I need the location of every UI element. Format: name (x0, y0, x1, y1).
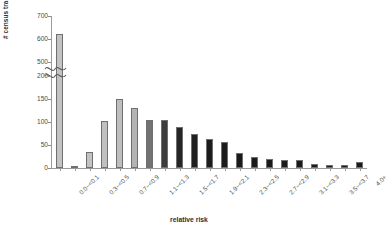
bar (131, 108, 139, 168)
y-axis-tick-label: 150 (37, 96, 48, 103)
y-axis-tick-mark (48, 145, 51, 146)
plot-area (52, 16, 367, 168)
x-axis-title: relative risk (0, 216, 378, 223)
x-axis-tick-mark (75, 168, 76, 171)
x-axis-tick-label: 1.1~<1.3 (168, 174, 190, 196)
bar (266, 159, 274, 168)
bar (176, 127, 184, 168)
x-axis-tick-mark (345, 168, 346, 171)
x-axis-tick-mark (150, 168, 151, 171)
bar (161, 120, 169, 168)
bar (236, 153, 244, 168)
x-axis-tick-mark (225, 168, 226, 171)
x-axis-tick-mark (360, 168, 361, 171)
bar (86, 152, 94, 168)
bar (191, 134, 199, 168)
x-axis-tick-mark (270, 168, 271, 171)
x-axis-tick-mark (180, 168, 181, 171)
x-axis-tick-label: 4.0+ (374, 174, 387, 187)
x-axis-tick-label: 3.5~<3.7 (348, 174, 370, 196)
x-axis-tick-mark (285, 168, 286, 171)
bar (206, 139, 214, 168)
x-axis-tick-mark (195, 168, 196, 171)
x-axis-tick-mark (120, 168, 121, 171)
y-axis-tick-label: 700 (37, 13, 48, 20)
y-axis-tick-label: 500 (37, 59, 48, 66)
y-axis-tick-mark (48, 62, 51, 63)
y-axis-tick-label: 600 (37, 36, 48, 43)
bar (296, 160, 304, 168)
x-axis-tick-mark (330, 168, 331, 171)
bar (221, 142, 229, 168)
x-axis-tick-label: 3.1~<3.3 (318, 174, 340, 196)
y-axis-tick-mark (48, 76, 51, 77)
y-axis-tick-mark (48, 168, 51, 169)
bar (56, 34, 64, 168)
x-axis-tick-mark (315, 168, 316, 171)
y-axis-title: # census tracts (2, 0, 9, 60)
x-axis-tick-label: 1.9~<2.1 (228, 174, 250, 196)
x-axis-tick-mark (240, 168, 241, 171)
x-axis-tick-label: 1.5~<1.7 (198, 174, 220, 196)
x-axis-tick-mark (135, 168, 136, 171)
y-axis-tick-labels: 050100150200500600700 (18, 0, 48, 227)
x-axis-tick-label: 2.3~<2.5 (258, 174, 280, 196)
bar (101, 121, 109, 168)
x-axis-tick-label: 0.3~<0.5 (108, 174, 130, 196)
y-axis-tick-label: 50 (41, 142, 48, 149)
x-axis-tick-mark (165, 168, 166, 171)
y-axis-tick-label: 100 (37, 119, 48, 126)
y-axis-tick-label: 200 (37, 73, 48, 80)
x-axis-tick-mark (210, 168, 211, 171)
bar (146, 120, 154, 168)
x-axis-tick-mark (255, 168, 256, 171)
x-axis-tick-mark (90, 168, 91, 171)
y-axis-tick-mark (48, 39, 51, 40)
y-axis-tick-mark (48, 122, 51, 123)
bar (281, 160, 289, 168)
x-axis-tick-label: 0.0~<0.1 (78, 174, 100, 196)
y-axis-tick-mark (48, 99, 51, 100)
bar (251, 157, 259, 169)
x-axis-tick-mark (300, 168, 301, 171)
x-axis-tick-mark (105, 168, 106, 171)
x-axis-tick-label: 2.7~<2.9 (288, 174, 310, 196)
bar (116, 99, 124, 168)
x-axis-tick-mark (60, 168, 61, 171)
x-axis-tick-label: 0.7~<0.9 (138, 174, 160, 196)
y-axis-tick-mark (48, 16, 51, 17)
